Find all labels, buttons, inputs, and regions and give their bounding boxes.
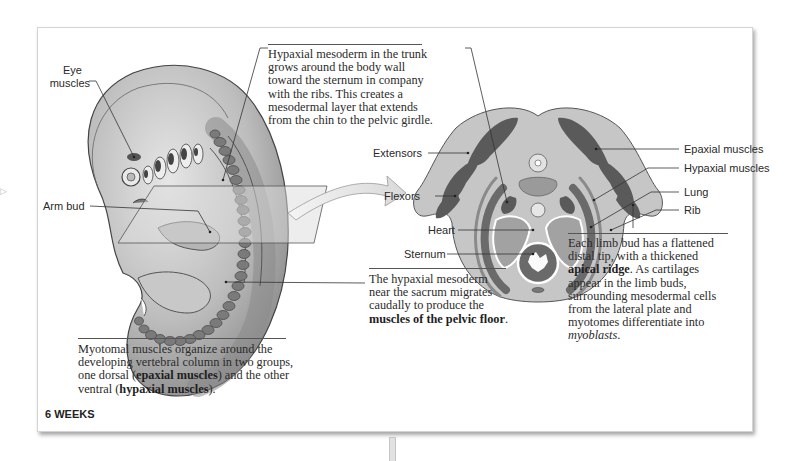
label-lung: Lung <box>684 186 708 199</box>
figure-panel: Eye muscles Arm bud Extensors Flexors He… <box>37 27 753 432</box>
label-muscles: muscles <box>49 77 90 90</box>
caption-rule <box>568 233 728 234</box>
caption-myotomal: Myotomal muscles organize around the dev… <box>78 343 328 396</box>
label-sternum: Sternum <box>404 248 446 261</box>
label-epaxial-muscles: Epaxial muscles <box>684 143 763 156</box>
caption-text: one dorsal ( <box>78 368 136 382</box>
label-eye-muscles: Eye muscles <box>49 64 90 90</box>
caption-text: ventral ( <box>78 382 119 396</box>
caption-text: . As cartilages <box>630 262 699 276</box>
caption-text: ) and the other <box>218 368 289 382</box>
caption-text: ). <box>208 382 215 396</box>
caption-line: with the ribs. This creates a <box>268 88 468 101</box>
caption-italic-term: myoblasts <box>568 328 617 342</box>
caption-line: appear in the limb buds, <box>568 277 748 290</box>
caption-pelvic-floor: The hypaxial mesoderm near the sacrum mi… <box>369 273 549 326</box>
label-eye: Eye <box>49 64 90 77</box>
caption-bold-term: muscles of the pelvic floor <box>369 312 505 326</box>
caption-trunk: Hypaxial mesoderm in the trunk grows aro… <box>268 48 468 127</box>
caption-bold-term: apical ridge <box>568 262 630 276</box>
label-extensors: Extensors <box>373 147 422 160</box>
caption-line: myoblasts. <box>568 329 748 342</box>
scroll-handle[interactable] <box>389 437 396 461</box>
caption-line: apical ridge. As cartilages <box>568 263 748 276</box>
caption-rule <box>268 44 422 45</box>
caption-bold-term: hypaxial muscles <box>119 382 208 396</box>
caption-rule <box>369 268 506 269</box>
caption-line: from the chin to the pelvic girdle. <box>268 114 468 127</box>
label-rib: Rib <box>684 204 701 217</box>
caption-rule <box>78 338 286 339</box>
caption-text: . <box>617 328 620 342</box>
caption-line: ventral (hypaxial muscles). <box>78 383 328 396</box>
stage-label: 6 WEEKS <box>45 408 95 420</box>
caption-line: muscles of the pelvic floor. <box>369 313 549 326</box>
label-hypaxial-muscles: Hypaxial muscles <box>684 162 770 175</box>
caption-line: toward the sternum in company <box>268 74 468 87</box>
label-arm-bud: Arm bud <box>43 200 85 213</box>
caption-punct: . <box>505 312 508 326</box>
label-flexors: Flexors <box>384 190 420 203</box>
label-heart: Heart <box>428 224 455 237</box>
caption-bold-term: epaxial muscles <box>136 368 218 382</box>
page-prev-arrow-icon[interactable]: ▷ <box>0 186 7 196</box>
caption-limb-bud: Each limb bud has a flattened distal tip… <box>568 237 748 343</box>
